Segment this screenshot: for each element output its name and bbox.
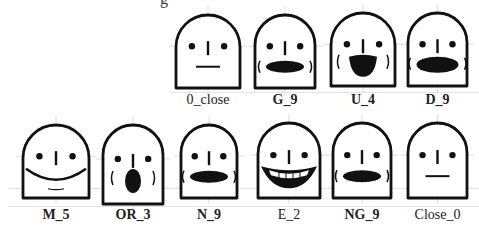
face-0-close [173, 12, 243, 88]
face-label: N_9 [164, 207, 254, 223]
face-label: G_9 [240, 92, 330, 108]
face-e-2 [255, 120, 323, 198]
face-ng-9 [330, 120, 394, 198]
face-label: D_9 [393, 92, 479, 108]
face-or-3 [100, 122, 166, 204]
face-label: Close_0 [393, 207, 479, 223]
face-d-9 [405, 10, 470, 86]
face-g-9 [252, 12, 318, 88]
face-m-5 [20, 122, 92, 198]
cropped-caption-text: g [160, 0, 168, 8]
face-n-9 [178, 122, 240, 198]
face-close-0 [405, 120, 470, 198]
face-u-4 [328, 10, 398, 86]
